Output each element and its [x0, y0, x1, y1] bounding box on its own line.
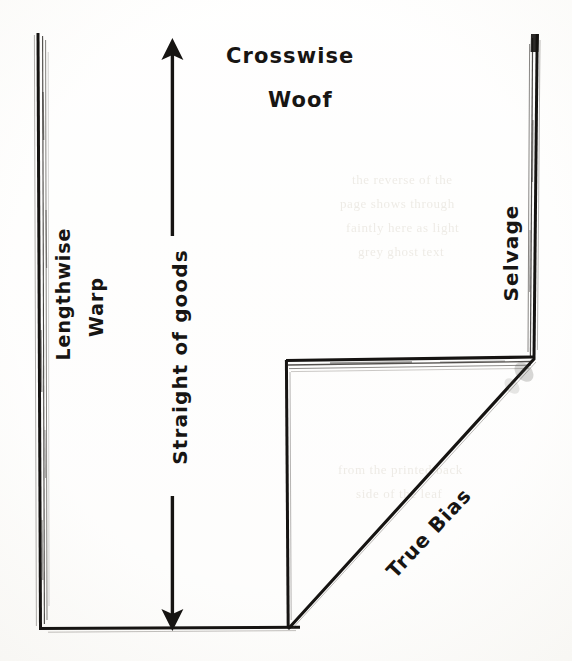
label-woof: Woof [268, 88, 333, 112]
label-crosswise: Crosswise [226, 44, 354, 68]
horizontal-fold-edge [286, 357, 533, 372]
label-lengthwise: Lengthwise [52, 228, 74, 361]
inner-vertical-fold-edge [286, 360, 291, 628]
true-bias-diagonal-line [289, 358, 537, 628]
label-straight-of-goods: Straight of goods [168, 249, 192, 464]
fabric-grain-diagram: the reverse of the page shows through fa… [0, 0, 572, 661]
left-selvage-edge [34, 33, 49, 628]
label-warp: Warp [85, 277, 107, 337]
bottom-edge [39, 627, 300, 632]
right-selvage-edge [528, 34, 540, 358]
label-selvage: Selvage [499, 205, 523, 302]
